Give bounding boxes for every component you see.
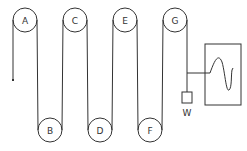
string-end-dot: [12, 79, 14, 81]
pulley-label-c: C: [72, 16, 78, 26]
waveform-trace: [210, 58, 233, 90]
pulley-label-a: A: [22, 16, 29, 26]
string-segment-e-f: [137, 20, 138, 130]
weight-box: [182, 92, 192, 103]
pulley-label-f: F: [147, 126, 152, 136]
trace-box: [205, 44, 241, 105]
pulley-label-g: G: [172, 16, 179, 26]
string-segment-c-d: [87, 20, 88, 130]
weight-label: W: [183, 108, 192, 118]
pulley-label-b: B: [47, 126, 53, 136]
pulley-label-e: E: [122, 16, 128, 26]
string-segment-f-g: [162, 20, 163, 130]
pulley-diagram: A C E G B D F W: [0, 0, 247, 151]
pulley-label-d: D: [97, 126, 104, 136]
string-segment-b-c: [62, 20, 63, 130]
string-segment-a-b: [37, 20, 38, 130]
string-segment-d-e: [112, 20, 113, 130]
